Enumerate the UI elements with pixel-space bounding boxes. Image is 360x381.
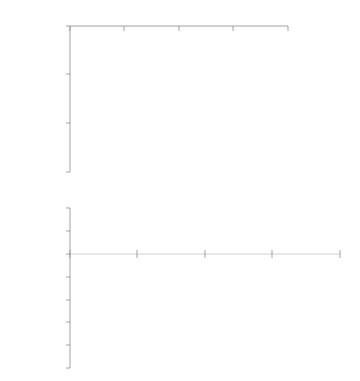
- figure-svg: [0, 0, 360, 381]
- bottom-y-ticks: [66, 208, 70, 368]
- top-x-ticks: [70, 26, 288, 31]
- top-y-ticks: [66, 26, 70, 172]
- bottom-seasonal-panel: [66, 208, 340, 368]
- figure-container: [0, 0, 360, 381]
- top-diurnal-panel: [66, 26, 288, 172]
